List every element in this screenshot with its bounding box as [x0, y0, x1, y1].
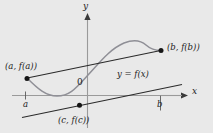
figure-container: y x 0 a b (a, f(a)) (b, f(b)) (c, f(c)) … [0, 0, 213, 133]
point-a-marker [25, 76, 30, 81]
point-b-marker [159, 48, 164, 53]
tick-label-b: b [157, 100, 162, 109]
origin-label: 0 [77, 78, 83, 87]
y-axis-arrow-icon [84, 13, 90, 20]
point-b-label: (b, f(b)) [167, 43, 200, 52]
y-axis-label: y [83, 2, 88, 11]
x-axis-arrow-icon [181, 92, 188, 98]
function-label: y = f(x) [117, 70, 149, 79]
y-axis [84, 13, 90, 128]
point-c-label: (c, f(c)) [58, 116, 89, 125]
point-c-marker [77, 103, 82, 108]
x-axis-label: x [192, 87, 197, 96]
point-a-label: (a, f(a)) [5, 62, 37, 71]
tick-label-a: a [23, 100, 28, 109]
